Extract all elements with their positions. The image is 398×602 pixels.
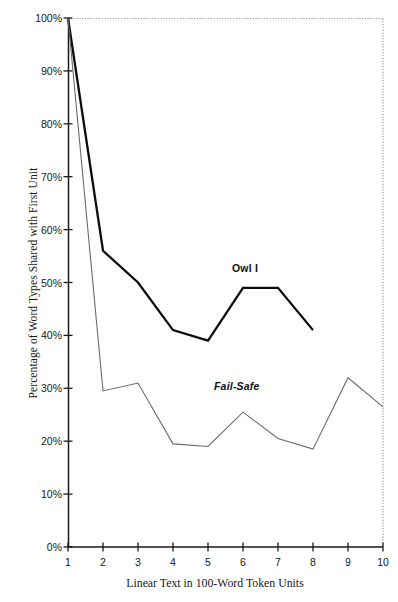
x-tick-label: 7 — [263, 556, 293, 568]
x-tick-label: 3 — [123, 556, 153, 568]
x-tick-label-group: 12345678910 — [0, 0, 398, 602]
series-label-fail-safe: Fail-Safe — [214, 380, 260, 392]
series-label-owl-i: Owl I — [232, 262, 258, 274]
chart-figure: 0%10%20%30%40%50%60%70%80%90%100% 123456… — [0, 0, 398, 602]
x-tick-label: 2 — [88, 556, 118, 568]
x-tick-label: 4 — [158, 556, 188, 568]
x-tick-label: 5 — [193, 556, 223, 568]
x-tick-label: 1 — [53, 556, 83, 568]
x-tick-label: 9 — [333, 556, 363, 568]
x-tick-label: 8 — [298, 556, 328, 568]
x-tick-label: 10 — [368, 556, 398, 568]
y-axis-title: Percentage of Word Types Shared with Fir… — [22, 18, 44, 548]
x-tick-label: 6 — [228, 556, 258, 568]
x-axis-title: Linear Text in 100-Word Token Units — [40, 576, 390, 591]
